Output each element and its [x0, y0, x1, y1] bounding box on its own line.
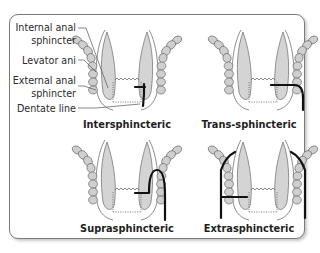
caption-trans-sphincteric: Trans-sphincteric [201, 119, 296, 130]
caption-suprasphincteric: Suprasphincteric [80, 223, 174, 234]
panel-trans-sphincteric [207, 30, 319, 110]
label-internal-anal-sphincter-1: Internal anal [15, 22, 76, 33]
label-levator-ani: Levator ani [22, 55, 76, 66]
label-external-anal-sphincter-1: External anal [13, 75, 76, 86]
label-internal-anal-sphincter-2: sphincter [31, 35, 76, 46]
caption-extrasphincteric: Extrasphincteric [204, 223, 295, 234]
fistula-classification-diagram: Internal anal sphincter Levator ani Exte… [0, 0, 320, 253]
label-external-anal-sphincter-2: sphincter [31, 88, 76, 99]
panel-extrasphincteric [207, 140, 319, 220]
caption-intersphincteric: Intersphincteric [83, 119, 171, 130]
label-dentate-line: Dentate line [17, 103, 76, 114]
panel-intersphincteric [71, 30, 183, 110]
panel-suprasphincteric [71, 140, 183, 220]
